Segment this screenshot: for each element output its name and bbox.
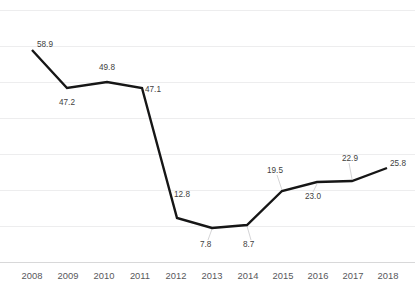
data-label-2017: 22.9	[342, 154, 358, 163]
data-point-labels: 58.9 47.2 49.8 47.1 12.8 7.8 8.7 19.5 23…	[37, 40, 406, 249]
data-label-2016: 23.0	[305, 192, 321, 201]
data-label-2014: 8.7	[243, 240, 255, 249]
data-label-2010: 49.8	[99, 63, 115, 72]
gridlines	[0, 11, 415, 263]
leader-line-2014	[247, 226, 251, 240]
data-label-2011: 47.1	[145, 85, 161, 94]
leader-line-2013	[208, 229, 212, 240]
x-tick-2011: 2011	[130, 270, 150, 281]
leader-line-2017	[349, 163, 352, 179]
line-chart: 58.9 47.2 49.8 47.1 12.8 7.8 8.7 19.5 23…	[0, 0, 415, 293]
data-label-2012: 12.8	[174, 190, 190, 199]
x-tick-2010: 2010	[94, 270, 115, 281]
x-tick-2008: 2008	[22, 270, 43, 281]
x-tick-2013: 2013	[202, 270, 223, 281]
data-label-2018: 25.8	[390, 159, 406, 168]
x-axis-tick-labels: 2008 2009 2010 2011 2012 2013 2014 2015 …	[22, 270, 399, 281]
x-tick-2015: 2015	[273, 270, 294, 281]
leader-line-2015	[277, 175, 282, 190]
label-leader-lines	[172, 163, 352, 240]
x-tick-2016: 2016	[308, 270, 329, 281]
x-tick-2014: 2014	[238, 270, 259, 281]
data-label-2013: 7.8	[200, 240, 212, 249]
data-line-series-1	[32, 50, 387, 228]
data-label-2015: 19.5	[267, 166, 283, 175]
data-label-2009: 47.2	[59, 98, 75, 107]
x-tick-2017: 2017	[343, 270, 364, 281]
x-tick-2009: 2009	[58, 270, 79, 281]
chart-canvas: 58.9 47.2 49.8 47.1 12.8 7.8 8.7 19.5 23…	[0, 0, 415, 293]
x-tick-2012: 2012	[166, 270, 187, 281]
x-tick-2018: 2018	[378, 270, 399, 281]
data-label-2008: 58.9	[37, 40, 53, 49]
